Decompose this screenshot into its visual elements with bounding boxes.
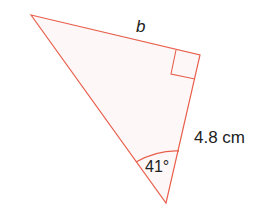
triangle: [31, 15, 200, 203]
triangle-svg: b 4.8 cm 41°: [0, 0, 269, 213]
side-b-label: b: [136, 17, 145, 36]
angle-label: 41°: [145, 158, 169, 175]
side-length-label: 4.8 cm: [194, 128, 245, 147]
triangle-diagram: b 4.8 cm 41°: [0, 0, 269, 213]
